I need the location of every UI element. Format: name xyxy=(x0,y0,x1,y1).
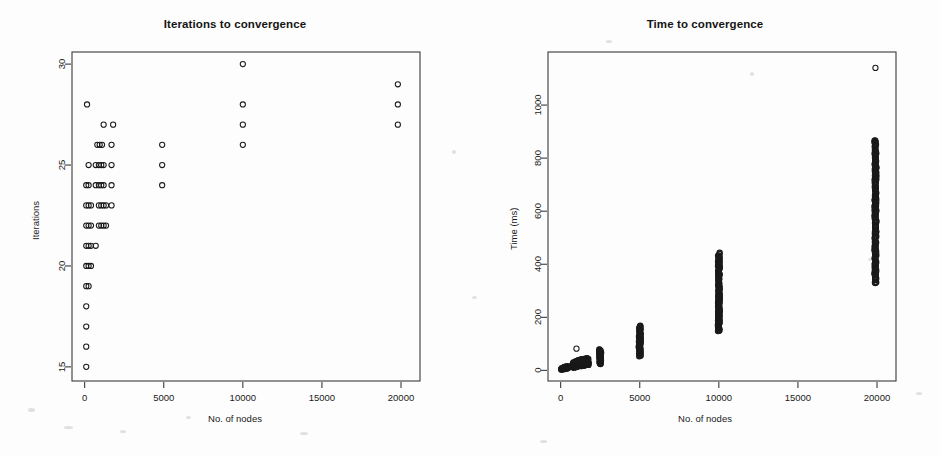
scatter-plot-iterations xyxy=(0,0,470,456)
y-tick-label-time: 800 xyxy=(532,146,544,170)
x-tick-label-time: 20000 xyxy=(864,392,890,403)
y-tick-label-time: 400 xyxy=(532,252,544,276)
y-axis-title-time: Time (ms) xyxy=(508,208,519,250)
y-tick-label-iterations: 15 xyxy=(56,355,68,379)
y-tick-label-time: 1000 xyxy=(532,93,544,117)
x-tick-label-time: 15000 xyxy=(785,392,811,403)
x-tick-label-iterations: 20000 xyxy=(388,392,414,403)
x-tick-label-iterations: 0 xyxy=(82,392,87,403)
panel-time: Time to convergence No. of nodes Time (m… xyxy=(470,0,940,456)
y-tick-label-time: 600 xyxy=(532,199,544,223)
figure-canvas: Iterations to convergence No. of nodes I… xyxy=(0,0,940,456)
y-tick-label-iterations: 30 xyxy=(56,52,68,76)
y-tick-label-time: 200 xyxy=(532,305,544,329)
x-tick-label-iterations: 5000 xyxy=(153,392,174,403)
x-axis-title-iterations: No. of nodes xyxy=(0,413,470,424)
y-axis-title-iterations: Iterations xyxy=(30,201,41,240)
x-tick-label-time: 0 xyxy=(558,392,563,403)
y-tick-label-iterations: 25 xyxy=(56,153,68,177)
x-tick-label-iterations: 15000 xyxy=(309,392,335,403)
x-tick-label-iterations: 10000 xyxy=(230,392,256,403)
x-tick-label-time: 10000 xyxy=(706,392,732,403)
y-tick-label-iterations: 20 xyxy=(56,254,68,278)
x-axis-title-time: No. of nodes xyxy=(470,413,940,424)
x-tick-label-time: 5000 xyxy=(629,392,650,403)
scatter-plot-time xyxy=(470,0,940,456)
panel-iterations: Iterations to convergence No. of nodes I… xyxy=(0,0,470,456)
y-tick-label-time: 0 xyxy=(532,358,544,382)
